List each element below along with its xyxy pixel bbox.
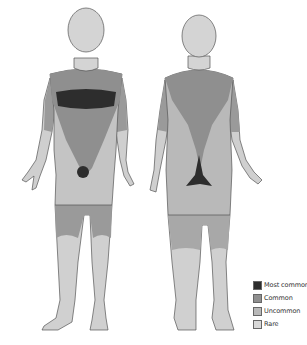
legend-label: Rare <box>264 320 279 328</box>
legend-item-common: Common <box>253 292 307 304</box>
front-groin <box>77 166 89 178</box>
legend-item-most-common: Most common <box>253 279 307 291</box>
legend-item-rare: Rare <box>253 318 307 330</box>
swatch-most-common <box>253 281 262 290</box>
back-neck <box>188 56 210 70</box>
front-neck <box>74 58 98 71</box>
back-figure <box>150 15 262 330</box>
back-head <box>182 15 216 57</box>
front-figure <box>22 8 134 330</box>
swatch-uncommon <box>253 307 262 316</box>
legend-item-uncommon: Uncommon <box>253 305 307 317</box>
front-head <box>68 8 104 52</box>
legend: Most common Common Uncommon Rare <box>253 279 307 331</box>
legend-label: Most common <box>264 281 307 289</box>
legend-label: Common <box>264 294 293 302</box>
back-thighs <box>168 215 230 250</box>
swatch-rare <box>253 320 262 329</box>
legend-label: Uncommon <box>264 307 300 315</box>
swatch-common <box>253 294 262 303</box>
front-chest-band <box>56 89 116 109</box>
